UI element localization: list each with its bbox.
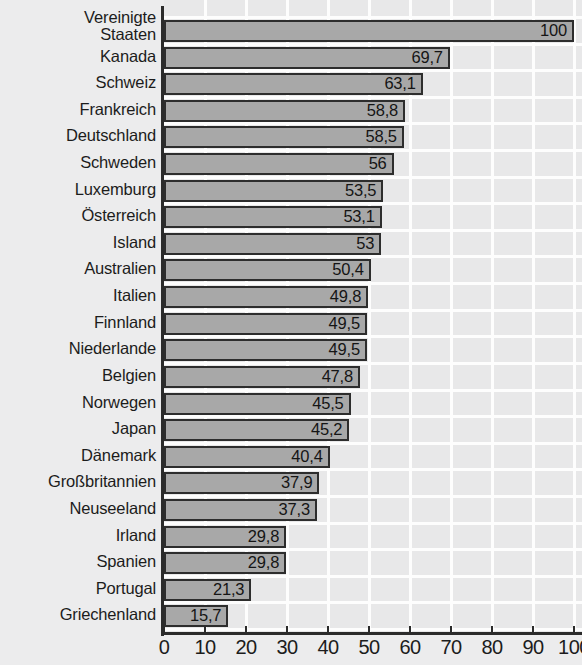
gridline-row-21 <box>164 575 582 578</box>
x-tick-mark-20 <box>245 626 247 633</box>
bar-row: Kanada69,7 <box>0 47 582 69</box>
category-label: Neuseeland <box>0 500 156 517</box>
bar-value-label: 69,7 <box>411 48 442 67</box>
bar-row: Italien49,8 <box>0 286 582 308</box>
x-tick-label-100: 100 <box>558 636 582 659</box>
category-label: Griechenland <box>0 606 156 623</box>
x-axis-line <box>161 632 582 635</box>
gridline-row-6 <box>164 176 582 179</box>
x-axis-tick-labels: 0102030405060708090100 <box>0 636 582 665</box>
bar-value-label: 45,2 <box>311 420 342 439</box>
gridline-row-17 <box>164 468 582 471</box>
gridline-row-5 <box>164 149 582 152</box>
category-label: Schweiz <box>0 74 156 91</box>
category-label: Finnland <box>0 314 156 331</box>
x-tick-mark-70 <box>450 626 452 633</box>
bar-value-label: 58,5 <box>366 127 397 146</box>
gridline-row-7 <box>164 202 582 205</box>
bar-row: Deutschland58,5 <box>0 126 582 148</box>
category-label: Deutschland <box>0 127 156 144</box>
bar <box>164 233 381 255</box>
category-label: Dänemark <box>0 447 156 464</box>
gridline-row-12 <box>164 335 582 338</box>
bar-value-label: 49,8 <box>330 287 361 306</box>
bar-value-label: 53,1 <box>343 207 374 226</box>
bar-row: Frankreich58,8 <box>0 100 582 122</box>
bar-row: Schweiz63,1 <box>0 73 582 95</box>
x-tick-mark-60 <box>409 626 411 633</box>
category-label: Australien <box>0 260 156 277</box>
category-label: Schweden <box>0 154 156 171</box>
bar-value-label: 37,9 <box>281 473 312 492</box>
gridline-row-16 <box>164 442 582 445</box>
bar-value-label: 47,8 <box>322 367 353 386</box>
bar-row: Finnland49,5 <box>0 313 582 335</box>
x-tick-label-70: 70 <box>440 636 461 659</box>
category-label: Portugal <box>0 580 156 597</box>
x-tick-label-20: 20 <box>235 636 256 659</box>
gridline-row-4 <box>164 122 582 125</box>
bar-row: Großbritannien37,9 <box>0 472 582 494</box>
category-label: Island <box>0 234 156 251</box>
gridline-row-19 <box>164 522 582 525</box>
category-label: Luxemburg <box>0 181 156 198</box>
x-tick-label-80: 80 <box>481 636 502 659</box>
bar-row: Japan45,2 <box>0 419 582 441</box>
bar-row: Island53 <box>0 233 582 255</box>
bar <box>164 153 394 175</box>
bar <box>164 20 574 42</box>
bar-value-label: 37,3 <box>279 500 310 519</box>
bar-value-label: 29,8 <box>248 527 279 546</box>
x-tick-label-30: 30 <box>276 636 297 659</box>
x-tick-label-50: 50 <box>358 636 379 659</box>
gridline-row-23 <box>164 628 582 631</box>
bar-row: Luxemburg53,5 <box>0 180 582 202</box>
gridline-row-13 <box>164 362 582 365</box>
gridline-row-11 <box>164 309 582 312</box>
bar-row: Schweden56 <box>0 153 582 175</box>
category-label: Norwegen <box>0 394 156 411</box>
gridline-row-3 <box>164 96 582 99</box>
bar-row: Australien50,4 <box>0 259 582 281</box>
category-label: Großbritannien <box>0 473 156 490</box>
category-label: Österreich <box>0 207 156 224</box>
x-tick-mark-100 <box>573 626 575 633</box>
bar-value-label: 45,5 <box>312 394 343 413</box>
gridline-row-0 <box>164 16 582 19</box>
gridline-row-8 <box>164 229 582 232</box>
x-tick-label-40: 40 <box>317 636 338 659</box>
x-tick-label-10: 10 <box>194 636 215 659</box>
bar-row: Spanien29,8 <box>0 552 582 574</box>
gridline-row-2 <box>164 69 582 72</box>
bar-value-label: 58,8 <box>367 101 398 120</box>
bar-row: Portugal21,3 <box>0 579 582 601</box>
bar-value-label: 15,7 <box>190 606 221 625</box>
bar-value-label: 100 <box>540 21 567 40</box>
bar-row: Niederlande49,5 <box>0 339 582 361</box>
category-label: Frankreich <box>0 101 156 118</box>
gridline-row-9 <box>164 255 582 258</box>
bar-value-label: 29,8 <box>248 553 279 572</box>
bar-row: Norwegen45,5 <box>0 393 582 415</box>
bar-value-label: 50,4 <box>332 260 363 279</box>
gridline-row-20 <box>164 548 582 551</box>
x-tick-mark-30 <box>286 626 288 633</box>
gridline-row-22 <box>164 601 582 604</box>
gridline-row-15 <box>164 415 582 418</box>
bar-row: Österreich53,1 <box>0 206 582 228</box>
gridline-row-18 <box>164 495 582 498</box>
bar-value-label: 49,5 <box>329 340 360 359</box>
category-label: Niederlande <box>0 340 156 357</box>
category-label: Italien <box>0 287 156 304</box>
bar-value-label: 63,1 <box>384 74 415 93</box>
gridline-row-1 <box>164 43 582 46</box>
x-tick-mark-0 <box>163 626 165 633</box>
gridline-row-10 <box>164 282 582 285</box>
category-label: Irland <box>0 527 156 544</box>
bar-row: VereinigteStaaten100 <box>0 20 582 42</box>
x-tick-label-90: 90 <box>522 636 543 659</box>
bar-value-label: 40,4 <box>291 447 322 466</box>
bar-row: Dänemark40,4 <box>0 446 582 468</box>
x-tick-mark-40 <box>327 626 329 633</box>
x-tick-mark-50 <box>368 626 370 633</box>
